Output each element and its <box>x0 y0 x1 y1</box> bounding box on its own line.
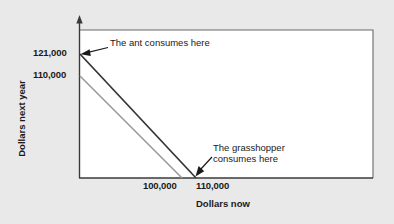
y-tick-label-121000: 121,000 <box>33 48 67 59</box>
x-axis-title: Dollars now <box>196 199 250 210</box>
chart-figure: 121,000 110,000 100,000 110,000 Dollars … <box>0 0 394 224</box>
grasshopper-annotation-text: The grasshopper consumes here <box>213 143 285 165</box>
x-tick-label-110000: 110,000 <box>196 181 229 192</box>
y-axis-title: Dollars next year <box>17 78 28 158</box>
ant-annotation-text: The ant consumes here <box>110 38 210 49</box>
y-axis-arrowhead <box>76 15 82 24</box>
x-tick-label-100000: 100,000 <box>143 181 177 192</box>
y-tick-label-110000: 110,000 <box>33 70 66 81</box>
grasshopper-annotation-line2: consumes here <box>213 154 285 165</box>
